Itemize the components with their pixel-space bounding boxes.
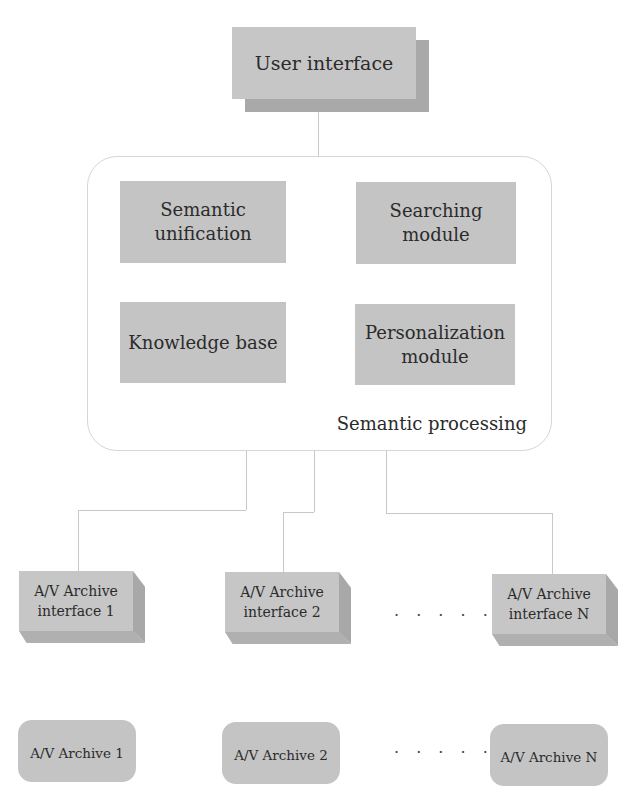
module-label-line1: Searching [390, 199, 483, 223]
connector-container-to-ifaceN-b [386, 513, 552, 514]
connector-container-to-iface2-a [314, 449, 315, 512]
user-interface-label: User interface [255, 52, 394, 74]
box-side-face [606, 574, 618, 646]
connector-container-to-iface1-b [78, 510, 246, 511]
connector-container-to-ifaceN-c [552, 513, 553, 574]
semantic-processing-container: Semantic unification Searching module Kn… [87, 156, 552, 451]
module-label-line2: unification [154, 222, 251, 246]
archive-interface-n: A/V Archive interface N [492, 574, 614, 634]
interface-label-line2: interface 2 [240, 602, 324, 622]
archive-label: A/V Archive 1 [30, 745, 124, 761]
connector-container-to-iface2-c [283, 512, 284, 572]
connector-ui-to-container [318, 112, 319, 156]
archive-2: A/V Archive 2 [222, 722, 340, 784]
connector-container-to-iface2-b [283, 512, 314, 513]
connector-container-to-iface1-c [78, 510, 79, 571]
connector-container-to-iface1-a [246, 449, 247, 510]
archive-interface-2: A/V Archive interface 2 [225, 572, 347, 632]
archive-label: A/V Archive 2 [234, 747, 328, 763]
module-label-line1: Semantic [154, 198, 251, 222]
archive-1: A/V Archive 1 [18, 720, 136, 782]
module-searching: Searching module [356, 182, 516, 264]
module-semantic-unification: Semantic unification [120, 181, 286, 263]
box-side-face [339, 572, 351, 644]
module-label-line2: module [365, 345, 505, 369]
connector-container-to-ifaceN-a [386, 449, 387, 513]
archive-interface-1: A/V Archive interface 1 [19, 571, 141, 631]
module-label-line1: Personalization [365, 321, 505, 345]
module-personalization: Personalization module [355, 304, 515, 385]
interface-label-line1: A/V Archive [507, 584, 591, 604]
semantic-processing-label: Semantic processing [337, 413, 527, 434]
box-bottom-face [225, 632, 351, 644]
interfaces-ellipsis: · · · · · [394, 606, 494, 625]
box-side-face [133, 571, 145, 643]
box-bottom-face [19, 631, 145, 643]
module-label-line1: Knowledge base [128, 331, 277, 355]
archive-n: A/V Archive N [490, 724, 608, 786]
interface-label-line1: A/V Archive [240, 582, 324, 602]
interface-label-line1: A/V Archive [34, 581, 118, 601]
module-label-line2: module [390, 223, 483, 247]
archives-ellipsis: · · · · · [394, 743, 494, 762]
archive-label: A/V Archive N [501, 749, 598, 765]
box-bottom-face [492, 634, 618, 646]
interface-label-line2: interface N [507, 604, 591, 624]
user-interface-box: User interface [232, 27, 416, 99]
module-knowledge-base: Knowledge base [120, 302, 286, 383]
interface-label-line2: interface 1 [34, 601, 118, 621]
